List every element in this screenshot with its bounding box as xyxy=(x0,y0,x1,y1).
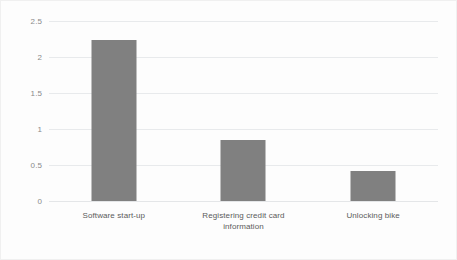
bar[interactable] xyxy=(351,171,396,201)
bar-slot: Unlocking bike xyxy=(308,21,438,201)
y-axis-tick-label: 2.5 xyxy=(31,17,42,26)
x-axis-category-label: Registering credit card information xyxy=(168,210,318,232)
bar[interactable] xyxy=(91,40,136,201)
bar-slot: Registering credit card information xyxy=(179,21,309,201)
y-axis-tick-label: 0 xyxy=(37,197,42,206)
y-axis-tick-label: 0.5 xyxy=(31,161,42,170)
y-axis-tick-label: 1.5 xyxy=(31,89,42,98)
x-axis-category-label: Unlocking bike xyxy=(298,210,448,221)
bar-chart-figure: 00.511.522.5 Software start-upRegisterin… xyxy=(0,0,457,260)
y-axis-tick-label: 1 xyxy=(37,125,42,134)
x-axis-category-label: Software start-up xyxy=(39,210,189,221)
gridline-y-0 xyxy=(49,201,438,202)
plot-area: 00.511.522.5 Software start-upRegisterin… xyxy=(49,21,438,201)
bar[interactable] xyxy=(221,140,266,201)
y-axis-tick-label: 2 xyxy=(37,53,42,62)
bars-group: Software start-upRegistering credit card… xyxy=(49,21,438,201)
bar-slot: Software start-up xyxy=(49,21,179,201)
